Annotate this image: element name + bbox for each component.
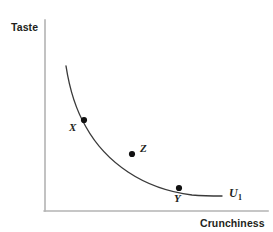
x-axis-title: Crunchiness [200,217,265,229]
data-point-x-marker [81,117,87,123]
y-axis-title: Taste [11,21,38,33]
data-point-z-label: Z [139,142,147,154]
chart-canvas: Taste Crunchiness X Z Y U 1 [0,0,273,232]
curve-label-subscript: 1 [238,193,242,202]
data-point-z-marker [129,151,135,157]
data-point-y-marker [176,185,182,191]
indifference-curve-figure: Taste Crunchiness X Z Y U 1 [0,0,273,232]
data-point-x-label: X [68,121,77,133]
indifference-curve-u1 [66,66,222,196]
